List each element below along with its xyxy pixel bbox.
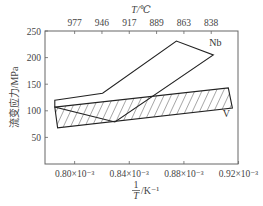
flow-stress-chart: 501001502002500.80×10⁻³0.84×10⁻³0.88×10⁻… bbox=[0, 0, 263, 206]
x-tick-label: 0.88×10⁻³ bbox=[164, 169, 203, 179]
top-tick-label: 889 bbox=[149, 18, 164, 28]
top-tick-label: 977 bbox=[68, 18, 83, 28]
top-axis-title: T/℃ bbox=[131, 4, 151, 15]
series-v-region bbox=[55, 88, 233, 128]
x-axis-title-numerator: 1 bbox=[134, 179, 139, 190]
x-axis-title-denominator: T bbox=[133, 190, 140, 201]
series-label-nb: Nb bbox=[209, 37, 221, 48]
y-tick-label: 200 bbox=[27, 53, 42, 63]
top-tick-label: 863 bbox=[177, 18, 192, 28]
series-group bbox=[55, 41, 233, 128]
y-tick-label: 150 bbox=[27, 80, 42, 90]
top-tick-label: 838 bbox=[204, 18, 219, 28]
top-tick-label: 946 bbox=[95, 18, 110, 28]
x-tick-label: 0.80×10⁻³ bbox=[55, 169, 94, 179]
y-tick-label: 100 bbox=[27, 106, 42, 116]
y-tick-label: 250 bbox=[27, 27, 42, 37]
x-tick-label: 0.92×10⁻³ bbox=[219, 169, 258, 179]
series-label-v: V bbox=[223, 108, 231, 119]
x-tick-label: 0.84×10⁻³ bbox=[110, 169, 149, 179]
y-axis-title: 流变应力/MPa bbox=[8, 66, 20, 128]
x-axis-title-unit: /K⁻¹ bbox=[141, 185, 159, 196]
top-tick-label: 917 bbox=[122, 18, 137, 28]
y-tick-label: 50 bbox=[32, 133, 42, 143]
